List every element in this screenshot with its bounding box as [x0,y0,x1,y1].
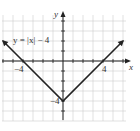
x-tick-label-neg4: −4 [14,64,24,74]
y-axis-arrow-icon [61,11,66,17]
graph: x y y = |x| − 4 −4 4 −4 [0,0,140,131]
x-tick-label-4: 4 [102,64,107,74]
equation-label: y = |x| − 4 [13,35,50,45]
y-tick-label-neg4: −4 [50,96,60,106]
x-axis-label: x [128,62,133,72]
y-axis-label: y [53,9,58,19]
